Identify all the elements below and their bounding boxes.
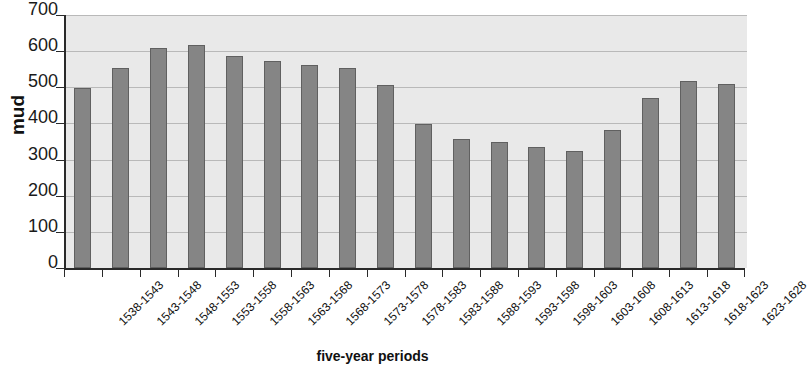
x-tick-mark [215, 270, 216, 277]
y-tick-label: 500 [14, 72, 58, 90]
bar [680, 81, 697, 268]
x-tick-mark [556, 270, 557, 277]
x-tick-mark [64, 270, 65, 277]
bar [566, 151, 583, 268]
bar [339, 68, 356, 268]
x-tick-mark [632, 270, 633, 277]
bar [491, 142, 508, 269]
y-tick-label: 0 [14, 253, 58, 271]
x-tick-mark [253, 270, 254, 277]
bar [415, 124, 432, 268]
y-tick-mark [56, 196, 64, 197]
y-tick-label: 700 [14, 0, 58, 18]
bar [718, 84, 735, 268]
x-axis-tick-labels: 1538-15431543-15481548-15531553-15581558… [64, 278, 745, 340]
y-tick-mark [56, 123, 64, 124]
bar [301, 65, 318, 268]
bars-container [64, 15, 745, 268]
bar [264, 61, 281, 268]
bar [74, 88, 91, 268]
x-tick-mark [744, 270, 745, 277]
bar [226, 56, 243, 268]
bar [112, 68, 129, 268]
x-tick-mark [707, 270, 708, 277]
x-tick-mark [405, 270, 406, 277]
y-tick-mark [56, 232, 64, 233]
x-tick-mark [480, 270, 481, 277]
bar [453, 139, 470, 268]
bar [604, 130, 621, 268]
x-tick-mark [367, 270, 368, 277]
bar [528, 147, 545, 268]
y-tick-label: 600 [14, 36, 58, 54]
y-tick-label: 200 [14, 181, 58, 199]
x-tick-mark [669, 270, 670, 277]
x-axis-title: five-year periods [0, 348, 745, 364]
bar [188, 45, 205, 268]
y-tick-label: 100 [14, 217, 58, 235]
y-tick-mark [56, 51, 64, 52]
y-tick-mark [56, 268, 64, 269]
x-tick-mark [102, 270, 103, 277]
bar [642, 98, 659, 268]
y-tick-mark [56, 160, 64, 161]
x-tick-mark [329, 270, 330, 277]
y-tick-mark [56, 15, 64, 16]
x-tick-mark [291, 270, 292, 277]
x-tick-mark [594, 270, 595, 277]
x-tick-mark [518, 270, 519, 277]
x-tick-mark [140, 270, 141, 277]
bar [377, 85, 394, 268]
y-tick-mark [56, 87, 64, 88]
y-tick-label: 400 [14, 108, 58, 126]
y-tick-label: 300 [14, 145, 58, 163]
bar [150, 48, 167, 268]
x-tick-mark [178, 270, 179, 277]
y-axis-tick-labels: 0100200300400500600700 [14, 9, 58, 269]
x-tick-mark [442, 270, 443, 277]
